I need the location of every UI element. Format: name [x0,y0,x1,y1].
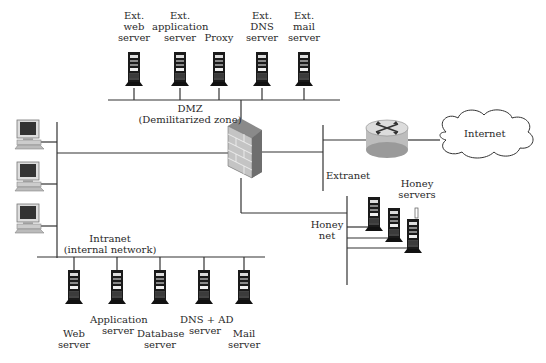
intranet-label: Intranet(internal network) [60,233,160,255]
intranet-server-label-dns-ad: DNS + ADserver [180,314,230,336]
firewall-icon [228,118,262,178]
dmz-server-label-ext-web: Ext.webserver [116,10,152,43]
router-icon [366,120,408,158]
dmz-server-icons [125,52,313,86]
intranet-server-label-mail: Mailserver [228,328,260,350]
perimeter-links [241,125,440,285]
honey-server-icons [365,197,422,253]
honey-servers-label: Honeyservers [397,178,437,200]
dmz-zone-label: DMZ(Demilitarized zone) [135,103,245,125]
dmz-server-label-ext-application: Ext.applicationserver [152,10,208,43]
extranet-label: Extranet [326,170,370,181]
intranet-bus [37,257,265,270]
dmz-server-label-proxy: Proxy [203,32,235,43]
dmz-server-label-ext-mail: Ext.mailserver [287,10,321,43]
intranet-server-icons [65,270,253,304]
intranet-server-label-web: Webserver [57,328,91,350]
workstation-icons [15,120,44,233]
network-diagram [0,0,546,363]
honey-net-label: Honeynet [309,219,345,241]
internet-label: Internet [464,128,505,139]
intranet-server-label-database: Databaseserver [137,328,183,350]
dmz-server-label-ext-dns: Ext.DNSserver [245,10,279,43]
